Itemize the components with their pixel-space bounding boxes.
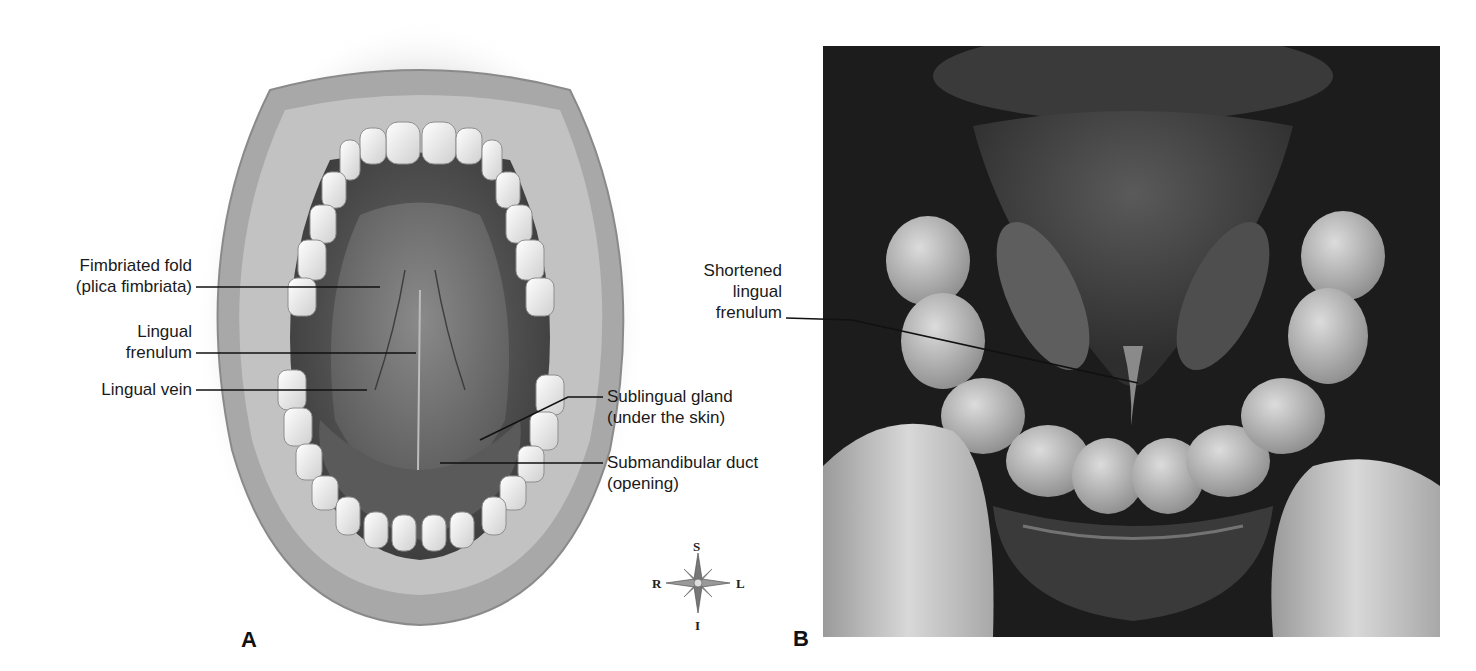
- label-line: (plica fimbriata): [20, 276, 192, 297]
- compass-rose-icon: [666, 553, 730, 613]
- compass-right: R: [652, 576, 661, 592]
- compass-left: L: [736, 576, 745, 592]
- label-line: lingual: [640, 281, 782, 302]
- compass-superior: S: [693, 539, 700, 555]
- panel-letter-b: B: [793, 626, 809, 652]
- label-line: Lingual vein: [20, 379, 192, 400]
- label-lingual-frenulum: Lingual frenulum: [20, 321, 192, 363]
- label-line: (under the skin): [607, 407, 733, 428]
- panel-letter-a: A: [241, 627, 257, 653]
- label-line: Submandibular duct: [607, 452, 758, 473]
- label-sublingual-gland: Sublingual gland (under the skin): [607, 386, 733, 428]
- label-line: frenulum: [20, 342, 192, 363]
- label-line: Sublingual gland: [607, 386, 733, 407]
- label-submandibular-duct: Submandibular duct (opening): [607, 452, 758, 494]
- label-fimbriated-fold: Fimbriated fold (plica fimbriata): [20, 255, 192, 297]
- label-line: Shortened: [640, 260, 782, 281]
- label-line: Fimbriated fold: [20, 255, 192, 276]
- label-line: Lingual: [20, 321, 192, 342]
- label-lingual-vein: Lingual vein: [20, 379, 192, 400]
- compass-inferior: I: [695, 618, 700, 634]
- label-line: (opening): [607, 473, 758, 494]
- panel-b-photograph: [823, 46, 1440, 637]
- label-shortened-frenulum: Shortened lingual frenulum: [640, 260, 782, 323]
- label-line: frenulum: [640, 302, 782, 323]
- tongue-tie-photo: [823, 46, 1440, 637]
